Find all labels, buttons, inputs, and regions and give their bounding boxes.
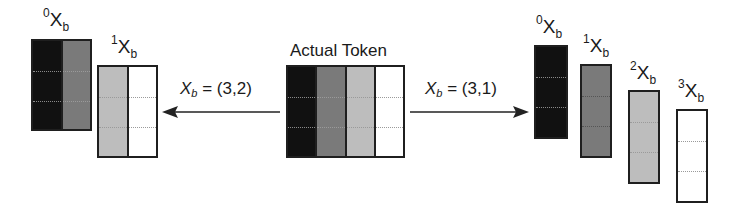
- block-name: X: [118, 36, 131, 57]
- block-name: X: [590, 35, 603, 56]
- block-index: 0: [536, 13, 543, 27]
- left-block-0: [31, 39, 92, 131]
- token-column-3: [374, 67, 403, 156]
- block-index: 1: [111, 33, 118, 47]
- block-column-black: [33, 41, 61, 129]
- block-subscript: b: [602, 46, 609, 60]
- equation-value: = (3,2): [202, 79, 252, 98]
- block-column-darkgray: [61, 41, 91, 129]
- block-column-white: [127, 67, 157, 156]
- block-name: X: [543, 16, 556, 37]
- block-index: 0: [43, 6, 50, 20]
- block-subscript: b: [649, 73, 656, 87]
- block-subscript: b: [555, 27, 562, 41]
- left-arrow-icon: [160, 104, 282, 120]
- left-block-1-label: 1Xb: [111, 37, 137, 56]
- block-index: 1: [583, 32, 590, 46]
- token-column-2: [345, 67, 374, 156]
- right-arrow-icon: [409, 104, 531, 120]
- right-block-2-label: 2Xb: [630, 63, 656, 82]
- equation-variable: X: [425, 79, 436, 98]
- block-column-lightgray: [99, 67, 127, 156]
- left-block-1: [97, 65, 158, 158]
- right-arrow-label: Xb = (3,1): [425, 79, 497, 99]
- equation-variable: X: [180, 79, 191, 98]
- right-block-0: [534, 45, 568, 139]
- right-block-2: [628, 90, 660, 184]
- equation-subscript: b: [436, 87, 442, 99]
- block-column-darkgray: [582, 66, 610, 156]
- right-block-0-label: 0Xb: [536, 17, 562, 36]
- block-name: X: [50, 9, 63, 30]
- block-subscript: b: [130, 47, 137, 61]
- block-index: 3: [678, 77, 685, 91]
- block-subscript: b: [62, 20, 69, 34]
- actual-token-block: [286, 65, 405, 158]
- right-block-1-label: 1Xb: [583, 36, 609, 55]
- token-column-0: [288, 67, 315, 156]
- block-column-black: [536, 47, 566, 137]
- block-name: X: [685, 80, 698, 101]
- block-name: X: [637, 62, 650, 83]
- left-block-0-label: 0Xb: [43, 10, 69, 29]
- right-block-3: [676, 109, 708, 203]
- left-arrow-label: Xb = (3,2): [180, 79, 252, 99]
- actual-token-title: Actual Token: [290, 41, 387, 61]
- equation-subscript: b: [191, 87, 197, 99]
- block-index: 2: [630, 59, 637, 73]
- block-column-lightgray: [630, 92, 658, 182]
- block-subscript: b: [697, 91, 704, 105]
- block-column-white: [678, 111, 706, 201]
- right-block-1: [580, 64, 612, 158]
- equation-value: = (3,1): [447, 79, 497, 98]
- token-column-1: [315, 67, 344, 156]
- right-block-3-label: 3Xb: [678, 81, 704, 100]
